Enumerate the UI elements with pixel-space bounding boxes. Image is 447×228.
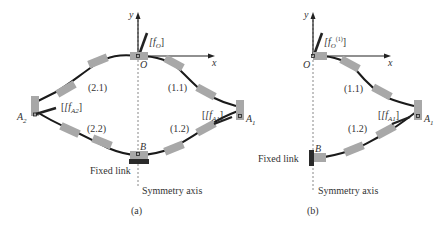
y-axis-label: y — [304, 10, 308, 20]
force-a1-label: [[fA1] — [378, 110, 399, 123]
force-a1-label: [[fA1] — [202, 110, 223, 123]
origin-label: O — [303, 60, 310, 70]
fixed-link-bar — [129, 159, 149, 164]
force-o-label: [fO(1)] — [324, 36, 346, 50]
segment — [163, 141, 185, 156]
force-vector-o — [314, 33, 322, 55]
force-vector-o — [139, 33, 147, 55]
segment — [371, 84, 392, 100]
symmetry-axis-label: Symmetry axis — [142, 186, 202, 196]
segment — [87, 54, 109, 69]
segment — [55, 81, 76, 98]
chain-2-2-wire — [34, 110, 138, 155]
x-axis-label: x — [212, 58, 216, 68]
origin-label: O — [140, 60, 147, 70]
fixed-link-label: Fixed link — [90, 166, 131, 176]
caption-b: (b) — [307, 206, 319, 216]
segment — [91, 135, 113, 150]
fixed-link-label: Fixed link — [258, 154, 299, 164]
y-axis-label: y — [129, 10, 133, 20]
chain-label-1-2: (1.2) — [170, 124, 189, 134]
chain-1-2-wire — [316, 112, 416, 158]
segment — [163, 55, 184, 71]
segment — [343, 142, 365, 157]
chain-2-1-wire — [34, 55, 138, 103]
chain-label-1-1: (1.1) — [344, 84, 363, 94]
node-a1-label: A1 — [246, 114, 256, 127]
node-a1-label: A1 — [424, 114, 434, 127]
force-o-label: [fO] — [149, 37, 164, 50]
a1-block — [236, 100, 244, 120]
chain-1-1-wire — [138, 56, 236, 106]
b-block — [314, 153, 326, 162]
a1-block — [414, 100, 422, 120]
origin-block — [313, 52, 327, 60]
chain-label-2-2: (2.2) — [87, 124, 106, 134]
chain-label-1-2: (1.2) — [348, 124, 367, 134]
node-b-label: B — [315, 144, 321, 154]
fixed-link-bar — [309, 150, 314, 166]
chain-label-2-1: (2.1) — [88, 83, 107, 93]
node-a2-label: A2 — [17, 112, 27, 125]
chain-1-1-wire — [318, 56, 414, 106]
segment — [195, 84, 216, 100]
segment — [59, 122, 81, 138]
force-a2-label: [[fA2] — [61, 102, 82, 115]
segment — [375, 123, 396, 139]
chain-label-1-1: (1.1) — [168, 83, 187, 93]
panel-a — [31, 12, 244, 188]
segment — [339, 56, 360, 72]
node-b-label: B — [140, 142, 146, 152]
symmetry-axis-label: Symmetry axis — [318, 186, 378, 196]
y-axis-arrow-icon — [136, 12, 141, 19]
caption-a: (a) — [131, 206, 142, 216]
x-axis-label: x — [388, 58, 392, 68]
y-axis-arrow-icon — [311, 12, 316, 19]
